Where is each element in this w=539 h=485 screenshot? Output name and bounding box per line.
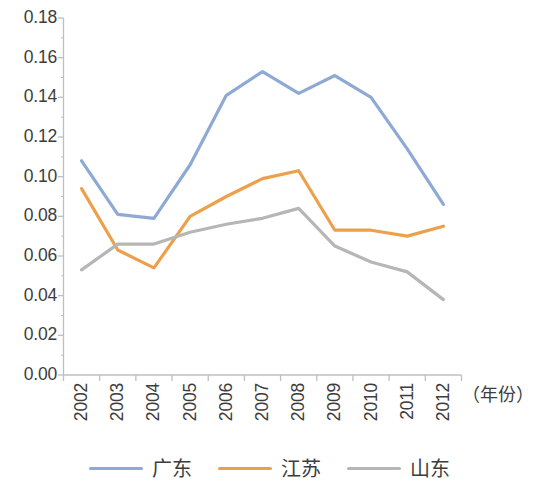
- legend-item[interactable]: 广东: [89, 459, 192, 479]
- y-tick-label: 0.00: [5, 366, 57, 384]
- y-tick-label: 0.12: [5, 128, 57, 146]
- x-axis-title: （年份）: [462, 386, 534, 404]
- y-tick-label: 0.04: [5, 287, 57, 305]
- legend-label: 山东: [410, 459, 450, 479]
- y-tick-label: 0.08: [5, 207, 57, 225]
- legend-label: 广东: [152, 459, 192, 479]
- plot-area: [0, 0, 539, 485]
- y-axis-ticks: [58, 18, 64, 375]
- legend-item[interactable]: 江苏: [218, 459, 321, 479]
- y-tick-label: 0.14: [5, 88, 57, 106]
- y-tick-label: 0.10: [5, 168, 57, 186]
- legend-item[interactable]: 山东: [347, 459, 450, 479]
- line-chart: 0.000.020.040.060.080.100.120.140.160.18…: [0, 0, 539, 485]
- chart-legend: 广东江苏山东: [0, 452, 539, 485]
- y-tick-label: 0.16: [5, 49, 57, 67]
- legend-label: 江苏: [281, 459, 321, 479]
- y-tick-label: 0.02: [5, 326, 57, 344]
- y-tick-label: 0.18: [5, 9, 57, 27]
- legend-swatch-icon: [218, 467, 272, 471]
- y-axis-tick-labels: 0.000.020.040.060.080.100.120.140.160.18: [0, 0, 57, 390]
- y-tick-label: 0.06: [5, 247, 57, 265]
- series-line-2: [82, 208, 444, 299]
- legend-swatch-icon: [89, 467, 143, 471]
- x-axis-ticks: [64, 375, 462, 381]
- series-line-0: [82, 72, 444, 219]
- legend-swatch-icon: [347, 467, 401, 471]
